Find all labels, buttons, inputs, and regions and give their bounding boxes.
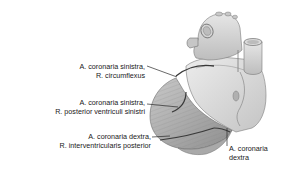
label-right-coronary: A. coronaria dextra [229,145,268,162]
label-posterior-lv-line2: R. posterior ventriculi sinistri [55,108,145,117]
label-posterior-interventricular-line2: R. interventricularis posterior [60,142,151,151]
label-circumflex-line2: R. circumflexus [79,72,145,81]
leader-line-circumflex [147,66,177,77]
label-right-coronary-line2: dextra [229,154,268,163]
label-circumflex: A. coronaria sinistra, R. circumflexus [79,63,145,80]
label-posterior-interventricular: A. coronaria dextra, R. interventricular… [60,133,151,150]
heart-diagram: A. coronaria sinistra, R. circumflexus A… [0,0,292,177]
label-posterior-lv-branch: A. coronaria sinistra, R. posterior vent… [55,99,145,116]
